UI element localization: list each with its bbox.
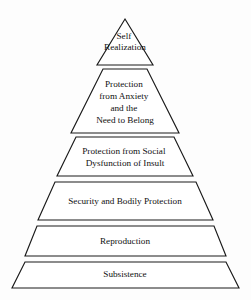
- pyramid-tier-2: Protection from Anxiety and the Need to …: [71, 69, 179, 133]
- tier-1-label: Self Realization: [104, 31, 146, 53]
- tier-4-label: Security and Bodily Protection: [68, 196, 182, 206]
- pyramid-tier-4: Security and Bodily Protection: [38, 182, 213, 220]
- tier-5-label: Reproduction: [100, 236, 150, 246]
- tier-6-label: Subsistence: [103, 269, 146, 279]
- tier-5-line-1: Reproduction: [100, 236, 150, 246]
- pyramid-tier-1: Self Realization: [97, 19, 153, 65]
- pyramid-tier-5: Reproduction: [25, 226, 226, 256]
- tier-1-line-1: Self: [116, 31, 132, 41]
- tier-2-line-2: from Anxiety: [99, 91, 149, 101]
- tier-2-line-1: Protection: [105, 79, 143, 89]
- tier-3-line-1: Protection from Social: [82, 146, 166, 156]
- tier-1-line-2: Realization: [104, 42, 146, 52]
- pyramid-diagram: Self Realization Protection from Anxiety…: [0, 0, 251, 300]
- tier-6-line-1: Subsistence: [103, 269, 146, 279]
- tier-4-line-1: Security and Bodily Protection: [68, 196, 182, 206]
- tier-2-line-3: and the: [110, 103, 137, 113]
- pyramid-canvas: Self Realization Protection from Anxiety…: [0, 0, 251, 300]
- tier-3-shape: [57, 137, 193, 176]
- pyramid-tier-3: Protection from Social Dysfunction of In…: [57, 137, 193, 176]
- tier-2-line-4: Need to Belong: [96, 115, 154, 125]
- pyramid-tier-6: Subsistence: [12, 262, 239, 288]
- tier-3-line-2: Dysfunction of Insult: [86, 158, 165, 168]
